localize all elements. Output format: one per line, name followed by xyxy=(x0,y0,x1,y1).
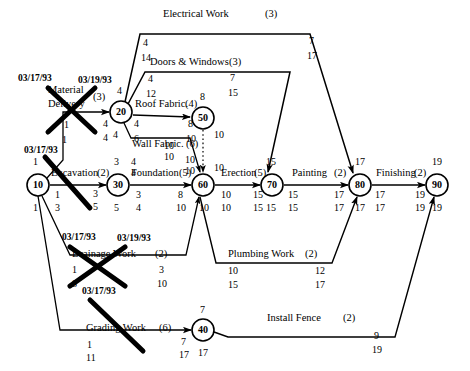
node-90-late: 19 xyxy=(432,203,442,213)
node-30-late: 5 xyxy=(114,203,119,213)
activity-label-electrical-work: Electrical Work xyxy=(163,9,229,20)
node-label-40: 40 xyxy=(198,325,208,335)
node-label-60: 60 xyxy=(198,180,208,190)
material-es: 1 xyxy=(64,120,69,130)
painting-ls: 17 xyxy=(334,190,344,200)
node-60-early: 10 xyxy=(164,141,174,151)
drainage-es: 1 xyxy=(72,265,77,275)
doors-lf: 15 xyxy=(228,88,238,98)
doors-es: 4 xyxy=(148,74,153,84)
date-annotation-1: 03/17/93 xyxy=(18,74,52,84)
node-50-early: 8 xyxy=(200,92,205,102)
node-80-late: 17 xyxy=(355,203,365,213)
node-70-late: 15 xyxy=(266,203,276,213)
activity-duration-excavation: (2) xyxy=(97,168,109,179)
activity-label-roof-fabrication: Roof Fabric. xyxy=(135,99,188,110)
node-50-late: 10 xyxy=(164,152,174,162)
activity-duration-doors-windows: (3) xyxy=(229,57,241,68)
material-ls: 4 xyxy=(103,119,108,129)
painting-ef: 15 xyxy=(288,203,298,213)
activity-label-material-delivery-line2: Delivery xyxy=(48,99,85,110)
electrical-lf: 17 xyxy=(307,51,317,61)
grading-es: 1 xyxy=(87,340,92,350)
roof-ls: 8 xyxy=(188,119,193,129)
painting-lf: 17 xyxy=(334,203,344,213)
activity-label-excavation: Excavation xyxy=(51,168,98,179)
activity-label-grading-work: Grading Work xyxy=(86,323,146,334)
node-60-late: 10 xyxy=(199,203,209,213)
activity-duration-roof-fabrication: (4) xyxy=(185,99,197,110)
plumbing-ls: 12 xyxy=(315,266,325,276)
node-40-late: 17 xyxy=(198,348,208,358)
activity-duration-erection: (5) xyxy=(254,168,266,179)
drainage-ls: 3 xyxy=(159,265,164,275)
activity-duration-foundation: (5) xyxy=(179,168,191,179)
excavation-ls: 3 xyxy=(93,189,98,199)
node-label-10: 10 xyxy=(33,180,43,190)
foundation-lf: 10 xyxy=(176,203,186,213)
painting-es: 15 xyxy=(288,190,298,200)
electrical-ls: 7 xyxy=(309,36,314,46)
network-diagram-canvas: Electrical Work (3) 4 14 7 17 Doors & Wi… xyxy=(0,0,470,371)
activity-label-erection: Erection xyxy=(221,168,257,179)
node-label-70: 70 xyxy=(267,180,277,190)
date-annotation-3: 03/17/93 xyxy=(24,146,58,156)
date-annotation-6: 03/17/93 xyxy=(82,287,116,297)
activity-duration-material-delivery: (3) xyxy=(93,92,105,103)
finishing-lf: 19 xyxy=(415,203,425,213)
node-10-late: 1 xyxy=(33,203,38,213)
excavation-ef: 3 xyxy=(55,203,60,213)
finishing-es: 17 xyxy=(375,190,385,200)
edge-grading-work xyxy=(38,196,191,330)
node-label-50: 50 xyxy=(198,113,208,123)
drainage-lf: 10 xyxy=(157,279,167,289)
excavation-lf: 5 xyxy=(93,202,98,212)
node-label-80: 80 xyxy=(355,180,365,190)
node-70-early: 15 xyxy=(266,157,276,167)
wall-ls: 10 xyxy=(185,155,195,165)
plumbing-lf: 17 xyxy=(315,280,325,290)
activity-label-drainage-work: Drainage Work xyxy=(72,249,136,260)
node-10-early: 1 xyxy=(33,157,38,167)
node-20-early: 4 xyxy=(117,86,122,96)
activity-label-install-fence: Install Fence xyxy=(267,313,321,324)
activity-duration-grading-work: (6) xyxy=(159,323,171,334)
activity-label-wall-fabrication: Wall Fabric. xyxy=(132,139,184,150)
drainage-ef: 8 xyxy=(72,279,77,289)
activity-label-material-delivery-line1: Material xyxy=(48,85,84,96)
node-90-early: 19 xyxy=(432,157,442,167)
grading-ef: 11 xyxy=(86,353,96,363)
fence-lf: 19 xyxy=(372,345,382,355)
activity-label-plumbing-work: Plumbing Work xyxy=(228,249,294,260)
erection-ls: 15 xyxy=(253,190,263,200)
plumbing-es: 10 xyxy=(228,266,238,276)
node-20-late: 4 xyxy=(113,130,118,140)
foundation-ls: 8 xyxy=(178,190,183,200)
electrical-es: 4 xyxy=(143,38,148,48)
roof-es: 4 xyxy=(134,119,139,129)
erection-ef: 10 xyxy=(221,203,231,213)
fence-ls: 9 xyxy=(374,331,379,341)
excavation-es: 1 xyxy=(55,190,60,200)
foundation-es: 3 xyxy=(136,190,141,200)
activity-duration-wall-fabrication: (6) xyxy=(186,139,198,150)
activity-duration-drainage-work: (2) xyxy=(155,249,167,260)
node-80-early: 17 xyxy=(355,157,365,167)
erection-lf: 15 xyxy=(253,203,263,213)
node-label-30: 30 xyxy=(113,180,123,190)
activity-duration-finishing: (2) xyxy=(414,168,426,179)
date-annotation-2: 03/19/93 xyxy=(78,76,112,86)
activity-label-doors-windows: Doors & Windows xyxy=(150,57,229,68)
erection-es: 10 xyxy=(221,190,231,200)
edge-roof-fabrication xyxy=(133,115,190,117)
activity-duration-plumbing-work: (2) xyxy=(305,249,317,260)
finishing-ls: 19 xyxy=(415,190,425,200)
wall-es: 4 xyxy=(131,157,136,167)
material-lf: 4 xyxy=(103,133,108,143)
activity-label-foundation: Foundation xyxy=(131,168,179,179)
node-30-early: 3 xyxy=(114,157,119,167)
finishing-ef: 17 xyxy=(375,203,385,213)
plumbing-ef: 15 xyxy=(228,280,238,290)
node-label-20: 20 xyxy=(116,107,126,117)
activity-duration-install-fence: (2) xyxy=(343,313,355,324)
